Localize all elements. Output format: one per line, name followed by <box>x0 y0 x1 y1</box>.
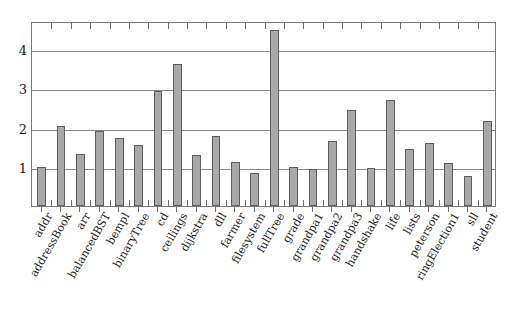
tick-bottom-1 <box>71 200 72 206</box>
bar-fullTree <box>270 30 279 206</box>
tick-top-6 <box>168 23 169 29</box>
bar-student <box>483 121 492 206</box>
tick-bottom-2 <box>90 200 91 206</box>
x-tick-farmer <box>234 207 235 212</box>
x-tick-addressBook <box>60 207 61 212</box>
bar-filesystem <box>250 173 259 206</box>
tick-bottom-9 <box>226 200 227 206</box>
x-label-ringElection1: ringElection1 <box>414 211 461 282</box>
tick-bottom-10 <box>245 200 246 206</box>
x-label-sll: sll <box>465 211 481 227</box>
x-tick-peterson <box>428 207 429 212</box>
x-tick-arr <box>79 207 80 212</box>
tick-top-7 <box>187 23 188 29</box>
tick-top-11 <box>265 23 266 29</box>
bar-balancedBST <box>95 131 104 206</box>
bar-chart-figure: 1234 addraddressBookarrbalancedBSTbemplb… <box>0 0 513 313</box>
tick-top-8 <box>206 23 207 29</box>
tick-bottom-5 <box>148 200 149 206</box>
x-label-dll: dll <box>212 211 229 229</box>
x-tick-student <box>486 207 487 212</box>
bar-addressBook <box>57 126 66 206</box>
x-label-grade: grade <box>280 211 306 245</box>
x-tick-bempl <box>118 207 119 212</box>
bar-dll <box>212 136 221 206</box>
tick-top-3 <box>110 23 111 29</box>
x-tick-cd <box>157 207 158 212</box>
x-label-binaryTree: binaryTree <box>111 211 151 270</box>
tick-bottom-7 <box>187 200 188 206</box>
x-tick-grade <box>293 207 294 212</box>
tick-top-16 <box>361 23 362 29</box>
y-tick-label-3: 3 <box>19 83 27 96</box>
plot-area <box>31 22 496 207</box>
tick-bottom-6 <box>168 200 169 206</box>
x-label-arr: arr <box>75 211 93 231</box>
bar-life <box>386 100 395 206</box>
gridline-4 <box>32 51 495 52</box>
tick-bottom-22 <box>478 200 479 206</box>
tick-top-19 <box>420 23 421 29</box>
x-tick-dll <box>215 207 216 212</box>
y-tick-label-4: 4 <box>19 44 27 57</box>
bar-sll <box>464 176 473 206</box>
x-label-addressBook: addressBook <box>28 211 73 279</box>
bar-addr <box>37 167 46 206</box>
bar-ringElection1 <box>444 163 453 206</box>
tick-top-17 <box>381 23 382 29</box>
tick-top-14 <box>323 23 324 29</box>
tick-top-15 <box>342 23 343 29</box>
x-tick-grandpa3 <box>351 207 352 212</box>
tick-bottom-16 <box>361 200 362 206</box>
x-tick-addr <box>41 207 42 212</box>
bar-grandpa2 <box>328 141 337 206</box>
tick-top-13 <box>303 23 304 29</box>
bar-bempl <box>115 138 124 206</box>
tick-top-2 <box>90 23 91 29</box>
tick-top-20 <box>439 23 440 29</box>
x-label-ceilings: ceilings <box>159 211 190 254</box>
x-label-bempl: bempl <box>105 211 132 246</box>
x-label-cd: cd <box>154 211 170 228</box>
bar-peterson <box>425 143 434 206</box>
tick-top-0 <box>51 23 52 29</box>
bar-farmer <box>231 162 240 206</box>
x-tick-grandpa2 <box>331 207 332 212</box>
tick-bottom-4 <box>129 200 130 206</box>
x-label-peterson: peterson <box>408 211 442 259</box>
tick-top-5 <box>148 23 149 29</box>
tick-bottom-0 <box>51 200 52 206</box>
bar-lists <box>405 149 414 206</box>
y-tick-label-1: 1 <box>19 161 27 174</box>
y-tick-label-2: 2 <box>19 122 27 135</box>
tick-bottom-15 <box>342 200 343 206</box>
bar-cd <box>154 91 163 206</box>
x-tick-life <box>389 207 390 212</box>
tick-top-21 <box>458 23 459 29</box>
x-label-student: student <box>469 211 500 253</box>
x-tick-balancedBST <box>99 207 100 212</box>
gridline-3 <box>32 90 495 91</box>
tick-top-12 <box>284 23 285 29</box>
x-tick-fullTree <box>273 207 274 212</box>
x-tick-ringElection1 <box>448 207 449 212</box>
bar-ceilings <box>173 64 182 206</box>
bar-grandpa1 <box>309 169 318 206</box>
tick-top-18 <box>400 23 401 29</box>
x-label-handshake: handshake <box>344 211 384 269</box>
y-axis-labels: 1234 <box>0 0 27 313</box>
tick-bottom-12 <box>284 200 285 206</box>
bar-handshake <box>367 168 376 206</box>
x-tick-binaryTree <box>138 207 139 212</box>
x-label-addr: addr <box>32 211 54 239</box>
x-tick-lists <box>409 207 410 212</box>
x-label-grandpa3: grandpa3 <box>328 211 364 263</box>
bar-binaryTree <box>134 145 143 206</box>
tick-bottom-21 <box>458 200 459 206</box>
tick-bottom-13 <box>303 200 304 206</box>
tick-top-22 <box>478 23 479 29</box>
x-tick-sll <box>467 207 468 212</box>
x-label-dijkstra: dijkstra <box>178 211 209 253</box>
tick-top-9 <box>226 23 227 29</box>
bar-grandpa3 <box>347 110 356 206</box>
